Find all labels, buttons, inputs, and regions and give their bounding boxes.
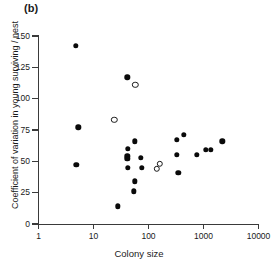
y-axis-line	[38, 35, 39, 225]
y-tick-25	[32, 192, 38, 193]
data-point	[176, 170, 181, 175]
y-tick-150	[32, 35, 38, 36]
x-tick-label-10: 10	[89, 231, 98, 241]
x-tick-label-1000: 1000	[194, 231, 213, 241]
x-tick-1	[38, 224, 39, 229]
data-point	[74, 162, 79, 167]
data-point	[124, 75, 129, 80]
y-tick-125	[32, 67, 38, 68]
data-point	[125, 165, 130, 170]
data-point	[138, 155, 143, 160]
data-point	[73, 43, 78, 48]
y-tick-50	[32, 161, 38, 162]
data-point	[125, 146, 130, 151]
x-tick-label-1: 1	[36, 231, 41, 241]
y-tick-75	[32, 129, 38, 130]
x-tick-10000	[258, 224, 259, 229]
x-tick-1000	[203, 224, 204, 229]
y-tick-100	[32, 98, 38, 99]
data-point	[132, 82, 138, 88]
x-tick-label-100: 100	[141, 231, 155, 241]
data-point	[132, 179, 137, 184]
data-point	[139, 165, 144, 170]
x-tick-10	[93, 224, 94, 229]
y-tick-label-0: 0	[0, 219, 30, 229]
data-point	[153, 166, 159, 172]
panel-label: (b)	[24, 2, 38, 14]
data-point	[124, 156, 129, 161]
data-point	[174, 152, 179, 157]
data-point	[174, 137, 179, 142]
figure-panel-b: (b) 0255075100125150 110100100010000 Col…	[0, 0, 278, 263]
data-point	[76, 125, 81, 130]
y-axis-label: Coefficient of variation in young surviv…	[10, 15, 20, 215]
data-point	[220, 139, 225, 144]
data-point	[208, 147, 213, 152]
data-point	[111, 117, 117, 123]
data-point	[181, 132, 186, 137]
data-point	[115, 204, 120, 209]
x-tick-label-10000: 10000	[247, 231, 271, 241]
data-point	[194, 152, 199, 157]
x-axis-label: Colony size	[0, 248, 278, 259]
data-point	[131, 189, 136, 194]
data-point	[132, 139, 137, 144]
x-tick-100	[148, 224, 149, 229]
